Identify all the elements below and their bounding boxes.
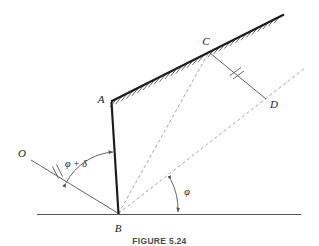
angle-label-phi: φ [184, 186, 190, 197]
point-label-c: C [202, 35, 210, 47]
ground-surface-line [111, 15, 284, 102]
figure-caption: FIGURE 5.24 [0, 236, 319, 246]
figure-container: O A B C D φ + δ φ FIGURE 5.24 [0, 0, 319, 246]
point-label-b: B [115, 222, 122, 234]
point-label-o: O [18, 147, 26, 159]
ground-surface-band [110, 15, 284, 108]
point-label-a: A [97, 93, 105, 105]
point-label-d: D [269, 98, 278, 110]
geometry-diagram: O A B C D φ + δ φ [0, 0, 319, 246]
tick-mark-ob [53, 165, 63, 179]
wall-line-ab [112, 102, 119, 214]
angle-arc-phi [171, 180, 178, 212]
angle-label-phi-plus-delta: φ + δ [65, 158, 87, 169]
tick-mark-cd [230, 68, 244, 80]
line-c-to-d [210, 53, 266, 99]
dashed-line-b-through-d [119, 68, 306, 214]
